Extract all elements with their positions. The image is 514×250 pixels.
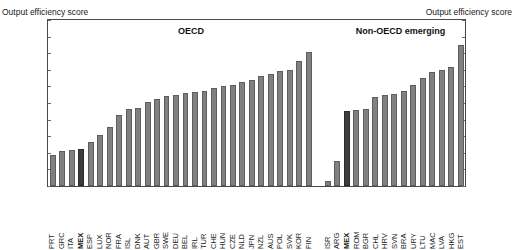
bar-slot	[219, 20, 228, 186]
bar-SVN[interactable]	[391, 94, 397, 186]
bar-GRC[interactable]	[59, 151, 65, 186]
bar-slot	[399, 20, 408, 186]
bar-AUS[interactable]	[268, 74, 274, 186]
x-tick-label-BRA: BRA	[400, 189, 408, 249]
x-label-slot: ARG	[332, 189, 342, 249]
bar-DNK[interactable]	[135, 108, 141, 186]
bar-slot	[446, 20, 455, 186]
bar-IRL[interactable]	[192, 92, 198, 186]
x-tick-label-SVK: SVK	[286, 189, 294, 249]
bar-BRA[interactable]	[401, 91, 407, 186]
bar-slot	[285, 20, 294, 186]
x-label-slot: BGR	[361, 189, 371, 249]
bar-SWE[interactable]	[164, 96, 170, 186]
x-tick-label-ITA: ITA	[67, 189, 75, 249]
x-tick-label-ROM: ROM	[353, 189, 361, 249]
bar-slot	[209, 20, 218, 186]
x-label-slot: IRL	[190, 189, 200, 249]
bar-slot	[86, 20, 95, 186]
x-label-slot: NOR	[104, 189, 114, 249]
bar-URY[interactable]	[410, 85, 416, 186]
x-axis-labels: PRTGRCITAMEXESPLUXNORFRAISLDNKAUTGBRSWED…	[47, 189, 466, 249]
bar-EST[interactable]	[458, 45, 464, 186]
bar-HRV[interactable]	[382, 95, 388, 186]
bar-HUN[interactable]	[221, 86, 227, 186]
bar-ISR[interactable]	[325, 181, 331, 186]
bar-slot	[133, 20, 142, 186]
bar-HKG[interactable]	[448, 67, 454, 186]
x-label-slot: BRA	[399, 189, 409, 249]
bar-NLD[interactable]	[239, 82, 245, 186]
bar-AUT[interactable]	[145, 102, 151, 186]
x-tick-label-JPN: JPN	[248, 189, 256, 249]
bar-MAC[interactable]	[429, 72, 435, 186]
bar-BEL[interactable]	[183, 93, 189, 186]
bar-FIN[interactable]	[306, 52, 312, 186]
bar-FRA[interactable]	[116, 115, 122, 186]
x-label-slot: MEX	[342, 189, 352, 249]
x-label-slot: FIN	[304, 189, 314, 249]
x-tick-label-GRC: GRC	[58, 189, 66, 249]
x-label-slot: CHE	[209, 189, 219, 249]
x-tick-label-FIN: FIN	[305, 189, 313, 249]
bar-CZE[interactable]	[230, 85, 236, 186]
bar-slot	[181, 20, 190, 186]
left-axis-title: Output efficiency score	[2, 7, 88, 17]
x-tick-label-URY: URY	[410, 189, 418, 249]
bar-ITA[interactable]	[69, 150, 75, 186]
x-tick-label-ARG: ARG	[333, 189, 341, 249]
bar-slot	[143, 20, 152, 186]
bar-LVA[interactable]	[439, 70, 445, 186]
bar-BGR[interactable]	[363, 109, 369, 186]
x-label-slot: AUS	[266, 189, 276, 249]
x-label-slot: POL	[275, 189, 285, 249]
x-label-slot: ESP	[85, 189, 95, 249]
bar-slot	[124, 20, 133, 186]
bar-SVK[interactable]	[287, 70, 293, 186]
x-tick-label-CZE: CZE	[229, 189, 237, 249]
x-label-slot: DEU	[171, 189, 181, 249]
bar-slot	[342, 20, 351, 186]
bar-slot	[152, 20, 161, 186]
x-tick-label-NOR: NOR	[105, 189, 113, 249]
bar-MEX[interactable]	[344, 111, 350, 186]
x-tick-label-AUT: AUT	[143, 189, 151, 249]
bar-MEX[interactable]	[78, 149, 84, 186]
x-tick-label-NLD: NLD	[238, 189, 246, 249]
bar-LUX[interactable]	[97, 135, 103, 186]
bar-KOR[interactable]	[296, 61, 302, 186]
bar-NOR[interactable]	[107, 127, 113, 186]
x-label-slot: AUT	[142, 189, 152, 249]
bar-slot	[162, 20, 171, 186]
x-tick-label-ESP: ESP	[86, 189, 94, 249]
x-tick-label-DEU: DEU	[172, 189, 180, 249]
x-tick-label-HRV: HRV	[381, 189, 389, 249]
bar-JPN[interactable]	[249, 80, 255, 186]
bar-spacer	[314, 20, 323, 186]
x-label-slot: EST	[456, 189, 466, 249]
x-label-slot: URY	[409, 189, 419, 249]
x-tick-label-NZL: NZL	[257, 189, 265, 249]
bar-slot	[247, 20, 256, 186]
bar-ESP[interactable]	[88, 142, 94, 186]
x-tick-label-ISR: ISR	[324, 189, 332, 249]
bar-PRT[interactable]	[50, 155, 56, 186]
bar-TUR[interactable]	[202, 91, 208, 186]
chart-container: Output efficiency score Output efficienc…	[0, 0, 514, 250]
bar-ISL[interactable]	[126, 109, 132, 186]
x-label-slot: NZL	[256, 189, 266, 249]
x-tick-label-TUR: TUR	[200, 189, 208, 249]
bar-slot	[238, 20, 247, 186]
x-tick-label-DNK: DNK	[134, 189, 142, 249]
x-label-slot: LUX	[95, 189, 105, 249]
bar-NZL[interactable]	[258, 76, 264, 186]
bar-ROM[interactable]	[353, 110, 359, 186]
bar-LTU[interactable]	[420, 78, 426, 186]
bar-POL[interactable]	[277, 71, 283, 186]
bar-GBR[interactable]	[154, 99, 160, 186]
bar-CHL[interactable]	[372, 97, 378, 186]
bar-CHE[interactable]	[211, 88, 217, 186]
bar-slot	[304, 20, 313, 186]
bar-DEU[interactable]	[173, 95, 179, 186]
bar-ARG[interactable]	[334, 161, 340, 186]
